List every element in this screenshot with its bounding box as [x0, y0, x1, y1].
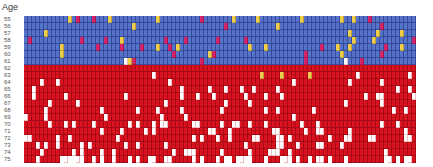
heatmap-cell	[412, 23, 416, 30]
y-tick-label: 67	[4, 100, 22, 107]
heatmap-cell	[412, 149, 416, 156]
heatmap-cell	[412, 16, 416, 23]
heatmap-cell	[412, 72, 416, 79]
heatmap-cell	[412, 37, 416, 44]
heatmap-cell	[412, 51, 416, 58]
y-tick-label: 56	[4, 23, 22, 30]
heatmap-cell	[412, 121, 416, 128]
y-tick-label: 74	[4, 149, 22, 156]
y-tick-label: 62	[4, 65, 22, 72]
y-tick-label: 60	[4, 51, 22, 58]
y-tick-label: 58	[4, 37, 22, 44]
heatmap-cell	[412, 135, 416, 142]
y-tick-label: 65	[4, 86, 22, 93]
heatmap-cell	[412, 44, 416, 51]
y-tick-label: 66	[4, 93, 22, 100]
y-tick-label: 75	[4, 156, 22, 163]
heatmap-cell	[412, 93, 416, 100]
heatmap-cell	[412, 100, 416, 107]
y-tick-label: 72	[4, 135, 22, 142]
y-tick-label: 59	[4, 44, 22, 51]
heatmap-cell	[412, 142, 416, 149]
heatmap-cell	[412, 107, 416, 114]
axis-title-age: Age	[2, 2, 18, 12]
y-tick-label: 57	[4, 30, 22, 37]
heatmap-cell	[412, 114, 416, 121]
y-tick-label: 71	[4, 128, 22, 135]
heatmap-cell	[412, 128, 416, 135]
heatmap-cell	[412, 156, 416, 163]
heatmap-cell	[412, 86, 416, 93]
y-tick-label: 61	[4, 58, 22, 65]
heatmap-cell	[412, 58, 416, 65]
heatmap-cell	[412, 79, 416, 86]
y-tick-label: 68	[4, 107, 22, 114]
y-tick-label: 73	[4, 142, 22, 149]
y-tick-label: 70	[4, 121, 22, 128]
y-tick-label: 63	[4, 72, 22, 79]
y-tick-label: 64	[4, 79, 22, 86]
y-tick-label: 69	[4, 114, 22, 121]
heatmap-cell	[412, 65, 416, 72]
heatmap-cell	[412, 30, 416, 37]
y-tick-label: 55	[4, 16, 22, 23]
